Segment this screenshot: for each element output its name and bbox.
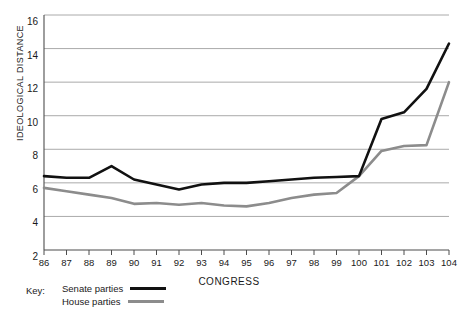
y-tick-label: 8	[22, 150, 38, 161]
y-tick-label: 12	[22, 83, 38, 94]
y-tick-label: 16	[22, 16, 38, 27]
legend-item-house-parties-label: House parties	[62, 296, 121, 307]
x-tick-label: 99	[326, 257, 348, 268]
ideological-distance-chart: IDEOLOGICAL DISTANCE 246810121416 868788…	[0, 0, 458, 318]
x-tick-label: 89	[101, 257, 123, 268]
series-line-house-parties	[44, 82, 449, 206]
legend-item-senate-parties: Senate parties	[62, 283, 166, 294]
x-tick-label: 104	[438, 257, 458, 268]
x-tick-label: 98	[303, 257, 325, 268]
x-tick-label: 102	[393, 257, 415, 268]
x-tick-label: 97	[281, 257, 303, 268]
y-tick-label: 14	[22, 50, 38, 61]
y-tick-label: 4	[22, 217, 38, 228]
x-tick-label: 100	[348, 257, 370, 268]
legend-item-senate-parties-label: Senate parties	[62, 283, 123, 294]
plot-area	[0, 0, 458, 318]
x-tick-label: 93	[191, 257, 213, 268]
series-line-senate-parties	[44, 44, 449, 190]
x-tick-label: 94	[213, 257, 235, 268]
x-tick-label: 88	[78, 257, 100, 268]
x-tick-label: 92	[168, 257, 190, 268]
x-tick-label: 86	[33, 257, 55, 268]
x-tick-label: 95	[236, 257, 258, 268]
x-tick-label: 87	[56, 257, 78, 268]
x-tick-label: 103	[416, 257, 438, 268]
legend-item-house-parties: House parties	[62, 296, 164, 307]
legend-swatch-house-parties	[128, 300, 164, 303]
x-tick-label: 90	[123, 257, 145, 268]
legend-key-label: Key:	[26, 285, 45, 296]
x-tick-label: 101	[371, 257, 393, 268]
x-tick-label: 91	[146, 257, 168, 268]
legend-swatch-senate-parties	[130, 287, 166, 290]
x-tick-label: 96	[258, 257, 280, 268]
y-tick-label: 10	[22, 117, 38, 128]
y-tick-label: 6	[22, 184, 38, 195]
